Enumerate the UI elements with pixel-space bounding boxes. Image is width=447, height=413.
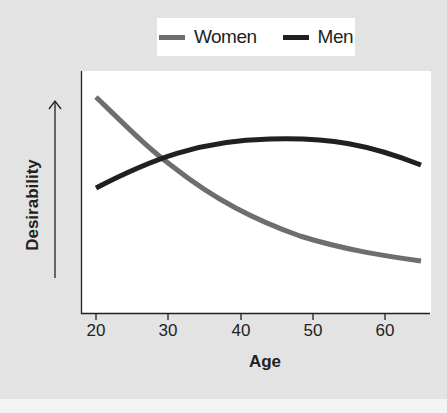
plot-area [81, 71, 431, 314]
x-tick-label: 30 [148, 321, 188, 341]
chart-plot [0, 0, 447, 413]
x-axis-label: Age [225, 352, 305, 372]
x-tick-label: 60 [365, 321, 405, 341]
x-tick-label: 50 [293, 321, 333, 341]
x-tick-label: 20 [76, 321, 116, 341]
y-axis-label: Desirability [13, 135, 53, 275]
x-tick-label: 40 [221, 321, 261, 341]
y-axis-label-text: Desirability [23, 159, 43, 251]
